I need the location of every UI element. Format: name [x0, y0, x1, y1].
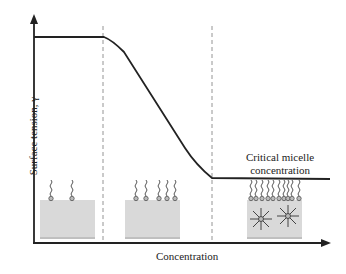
surface-tension-diagram	[0, 0, 346, 274]
micelle-2	[277, 205, 299, 227]
x-axis	[33, 239, 331, 247]
solution-box-above-cmc	[247, 180, 302, 239]
x-axis-label: Concentration	[156, 250, 218, 262]
cmc-annotation-line1: Critical micelle	[246, 151, 314, 164]
solution-box-low	[40, 180, 95, 239]
cmc-annotation-line2: concentration	[246, 164, 314, 177]
micelle-1	[250, 208, 272, 230]
cmc-annotation: Critical micelle concentration	[246, 151, 314, 177]
y-axis-label: Surface tension, γ	[27, 71, 39, 201]
solution-box-intermediate	[125, 180, 180, 239]
